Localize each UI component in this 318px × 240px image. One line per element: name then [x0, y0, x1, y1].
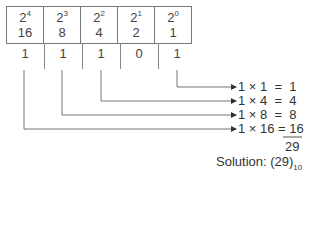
equation-16: 1 × 16 = 16 — [238, 121, 304, 136]
solution-text: Solution: (29)10 — [216, 154, 302, 172]
sum-total: 29 — [285, 139, 299, 154]
equation-1: 1 × 1 = 1 — [238, 79, 297, 94]
equation-8: 1 × 8 = 8 — [238, 107, 297, 122]
equation-4: 1 × 4 = 4 — [238, 93, 297, 108]
